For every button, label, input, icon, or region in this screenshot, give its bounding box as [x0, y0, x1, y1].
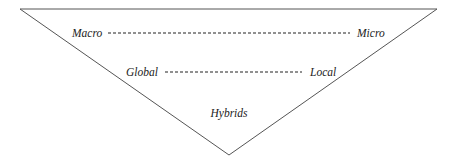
- label-local: Local: [309, 66, 336, 78]
- label-micro: Micro: [356, 27, 385, 39]
- label-macro: Macro: [71, 27, 102, 39]
- label-global: Global: [126, 66, 158, 78]
- triangle-diagram: Macro Micro Global Local Hybrids: [0, 0, 457, 164]
- label-hybrids: Hybrids: [209, 107, 248, 120]
